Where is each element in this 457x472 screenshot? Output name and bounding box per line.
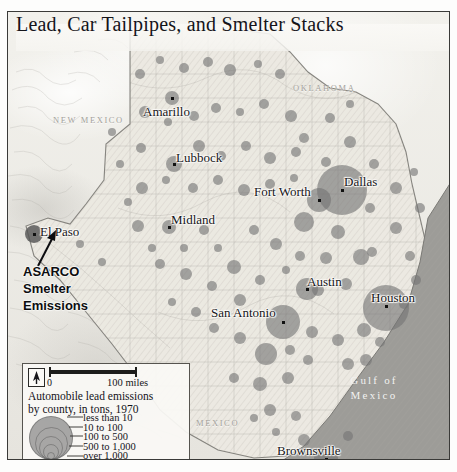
emission-symbol (343, 431, 353, 441)
emission-symbol (132, 220, 144, 232)
emission-symbol (291, 411, 301, 421)
legend-circle-4 (47, 452, 55, 460)
emission-symbol (390, 222, 402, 234)
asarco-line-2: Smelter (23, 280, 119, 297)
emission-symbol (375, 337, 385, 347)
emission-symbol (189, 111, 199, 121)
emission-symbol (162, 176, 170, 184)
emission-symbol (136, 182, 148, 194)
emission-symbol (180, 244, 188, 252)
city-label-san-antonio: San Antonio (211, 305, 276, 321)
city-label-midland: Midland (171, 212, 215, 228)
emission-symbol (390, 182, 402, 194)
emission-symbol (255, 275, 265, 285)
emission-symbol (306, 326, 318, 338)
emission-symbol (410, 168, 418, 176)
emission-symbol (234, 332, 246, 344)
emission-symbol (369, 159, 379, 169)
emission-symbol (299, 133, 309, 143)
emission-symbol (357, 323, 371, 337)
emission-symbol (290, 174, 298, 182)
emission-symbol (253, 377, 267, 391)
emission-symbol (227, 260, 241, 274)
emission-symbol (285, 345, 295, 355)
emission-symbol (116, 160, 124, 168)
emission-symbol (211, 103, 221, 113)
emission-symbol (331, 225, 345, 239)
scale-label-max: 100 miles (107, 377, 148, 388)
emission-symbol (168, 298, 176, 306)
emission-symbol (325, 113, 335, 123)
emission-symbol (360, 354, 372, 366)
legend-class-labels: less than 1010 to 100100 to 500500 to 1,… (83, 413, 136, 460)
emission-symbol (294, 212, 314, 232)
emission-symbol (295, 251, 305, 261)
emission-symbol (191, 307, 201, 317)
scale-tick-right (135, 367, 137, 377)
emission-symbol (405, 251, 415, 261)
emission-symbol (282, 372, 294, 384)
asarco-line-1: ASARCO (23, 263, 119, 280)
emission-symbol (259, 99, 269, 109)
page-title: Lead, Car Tailpipes, and Smelter Stacks (16, 13, 344, 36)
emission-symbol (148, 244, 156, 252)
emission-symbol (229, 373, 239, 383)
city-dot-amarillo (171, 97, 174, 100)
emission-symbol (415, 203, 425, 213)
emission-symbol (275, 69, 285, 79)
gulf-label-line2: Mexico (329, 388, 419, 403)
emission-symbol (285, 110, 297, 122)
emission-symbol (224, 64, 236, 76)
region-label-new-mexico: NEW MEXICO (53, 115, 124, 125)
north-arrow-icon (32, 371, 41, 384)
emission-symbol (411, 275, 421, 285)
emission-symbol (135, 69, 145, 79)
emission-symbol (320, 252, 332, 264)
north-arrow-box (28, 368, 45, 387)
city-label-lubbock: Lubbock (176, 150, 222, 166)
city-label-dallas: Dallas (344, 174, 377, 190)
city-dot-san-antonio (282, 321, 285, 324)
scale-label-zero: 0 (47, 377, 52, 388)
emission-symbol (344, 136, 356, 148)
asarco-line-3: Emissions (23, 297, 119, 314)
map-page: AmarilloLubbockMidlandEl PasoFort WorthD… (0, 0, 457, 472)
city-dot-fort-worth (318, 199, 321, 202)
emission-symbol (209, 323, 219, 333)
legend-class-label-4: over 1,000 (83, 451, 136, 460)
emission-symbol (365, 203, 375, 213)
emission-symbol (241, 141, 251, 151)
city-label-fort-worth: Fort Worth (254, 184, 311, 200)
city-label-austin: Austin (307, 274, 342, 290)
gulf-of-mexico-label: Gulf of Mexico (329, 373, 419, 403)
emission-symbol (264, 404, 276, 416)
emission-symbol (249, 225, 259, 235)
emission-symbol (321, 157, 331, 167)
emission-symbol (367, 247, 377, 257)
emission-symbol (332, 334, 344, 346)
emission-symbol (213, 175, 223, 185)
emission-symbol (346, 100, 354, 108)
emission-symbol (250, 414, 258, 422)
emission-symbol (108, 128, 116, 136)
emission-symbol (207, 281, 217, 291)
emission-symbol (136, 143, 146, 153)
emission-symbol (214, 244, 222, 252)
emission-symbol (254, 60, 262, 68)
gulf-label-line1: Gulf of (329, 373, 419, 388)
emission-symbol (270, 238, 282, 250)
emission-symbol (180, 268, 192, 280)
emission-symbol (255, 343, 277, 365)
emission-symbol (179, 63, 189, 73)
legend-caption-line1: Automobile lead emissions (28, 390, 188, 403)
emission-symbol (272, 428, 280, 436)
region-label-mexico: MEXICO (196, 418, 239, 428)
emission-symbol (76, 240, 84, 248)
city-label-houston: Houston (371, 290, 415, 306)
region-label-oklahoma: OKLAHOMA (293, 83, 355, 93)
emission-symbol (155, 259, 165, 269)
scale-bar (49, 370, 137, 374)
emission-symbol (156, 56, 164, 64)
emission-symbol (342, 358, 354, 370)
emission-symbol (188, 183, 198, 193)
